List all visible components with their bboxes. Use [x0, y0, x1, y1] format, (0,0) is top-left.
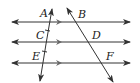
label-b: B: [77, 8, 86, 21]
congruent-tick-icon: [45, 30, 50, 31]
label-a: A: [39, 7, 48, 20]
label-d: D: [91, 29, 101, 42]
congruent-tick-icon: [42, 51, 47, 52]
label-f: F: [105, 50, 114, 63]
parallel-lines-diagram: A B C D E F: [0, 0, 140, 83]
label-e: E: [31, 50, 40, 63]
parallel-line-1: [12, 19, 130, 25]
label-c: C: [36, 29, 45, 42]
parallel-line-2: [12, 39, 130, 45]
transversal-right: [67, 8, 113, 82]
